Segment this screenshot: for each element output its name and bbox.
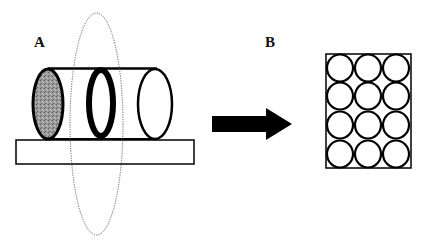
panel-b: [326, 54, 411, 168]
cylinder-right-end: [138, 69, 172, 139]
figure: A B: [0, 0, 424, 244]
panel-a: [16, 13, 194, 235]
cylinder-left-end-shaded: [33, 69, 63, 139]
middle-ring: [89, 70, 113, 136]
dotted-plane-ellipse: [70, 13, 123, 235]
platform: [16, 140, 194, 164]
diagram-canvas: [0, 0, 424, 244]
arrow-right-icon: [212, 108, 292, 140]
